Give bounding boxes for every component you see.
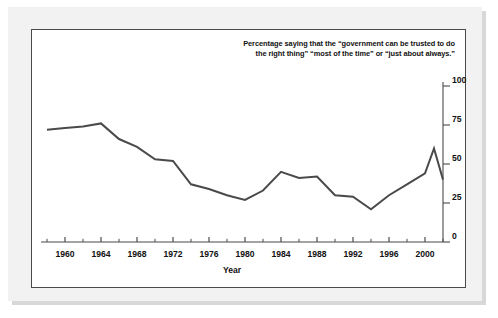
x-axis-tick-label: 1964 [81,249,121,259]
x-axis-tick-label: 1980 [225,249,265,259]
y-axis-tick-label: 25 [452,192,474,202]
figure-container: Percentage saying that the “government c… [0,0,498,318]
caption-line-2: the right thing” “most of the time” or “… [197,49,455,59]
x-axis-tick-label: 1960 [45,249,85,259]
x-axis-title: Year [182,265,282,275]
x-axis-tick-label: 1972 [153,249,193,259]
x-axis-tick-label: 1988 [297,249,337,259]
x-axis-tick-label: 1968 [117,249,157,259]
y-axis-tick-label: 0 [452,231,474,241]
y-axis-tick-label: 50 [452,153,474,163]
x-axis-tick-label: 1976 [189,249,229,259]
x-axis-tick-label: 1996 [369,249,409,259]
chart-caption: Percentage saying that the “government c… [197,39,455,59]
y-axis-tick-label: 75 [452,114,474,124]
y-axis-tick-label: 100 [452,75,474,85]
x-axis-tick-label: 2000 [405,249,445,259]
x-axis-tick-label: 1984 [261,249,301,259]
x-axis-tick-label: 1992 [333,249,373,259]
caption-line-1: Percentage saying that the “government c… [197,39,455,49]
